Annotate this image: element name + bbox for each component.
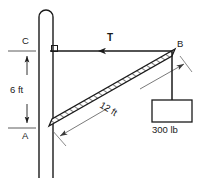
label-point-a: A xyxy=(22,131,28,141)
hanging-weight-box xyxy=(152,100,192,122)
label-tension-t: T xyxy=(107,33,113,43)
label-load-300lb: 300 lb xyxy=(152,125,178,135)
label-point-b: B xyxy=(177,39,183,49)
statics-diagram: C A B T 6 ft 12 ft 300 lb xyxy=(0,0,199,178)
diagram-canvas xyxy=(0,0,199,178)
label-dimension-6ft: 6 ft xyxy=(10,85,23,95)
vertical-pole xyxy=(39,10,53,178)
label-point-c: C xyxy=(22,36,29,46)
